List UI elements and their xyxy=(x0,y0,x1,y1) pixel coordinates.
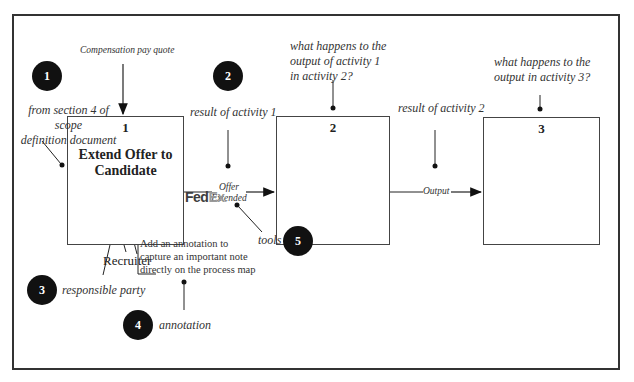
callout-4-text: annotation xyxy=(159,318,211,333)
annotation-note: Add an annotation to capture an importan… xyxy=(140,237,255,276)
callout-badge-3: 3 xyxy=(27,275,57,305)
callout-1-text: from section 4 of scope definition docum… xyxy=(16,103,121,148)
logo-ex: Ex xyxy=(208,189,224,205)
callout-2-text: result of activity 1 xyxy=(190,105,277,120)
question-activity-3: what happens to the output in activity 3… xyxy=(494,55,590,85)
input-label: Compensation pay quote xyxy=(80,45,174,55)
callout-1-line: from section 4 of scope xyxy=(16,103,121,133)
annotation-line: directly on the process map xyxy=(140,263,255,276)
callout-badge-1: 1 xyxy=(32,61,62,91)
flow-label-output: Output xyxy=(423,186,449,196)
logo-fed: Fed xyxy=(185,189,208,205)
annotation-line: capture an important note xyxy=(140,250,255,263)
callout-badge-4: 4 xyxy=(123,310,153,340)
callout-badge-5: 5 xyxy=(283,226,313,256)
question-activity-2: what happens to the output of activity 1… xyxy=(290,39,386,84)
fedex-logo-icon: FedEx. xyxy=(185,189,227,205)
question-line: output of activity 1 xyxy=(290,54,386,69)
question-line: output in activity 3? xyxy=(494,70,590,85)
callout-1-line: definition document xyxy=(16,133,121,148)
question-line: in activity 2? xyxy=(290,69,386,84)
activity-box-3[interactable]: 3 xyxy=(483,117,600,245)
annotation-line: Add an annotation to xyxy=(140,237,255,250)
activity-title: Extend Offer to Candidate xyxy=(68,147,183,179)
result-activity-2-text: result of activity 2 xyxy=(398,101,485,116)
question-line: what happens to the xyxy=(494,55,590,70)
activity-number: 2 xyxy=(277,120,389,136)
callout-5-text: tools xyxy=(258,233,281,248)
callout-3-text: responsible party xyxy=(62,283,145,298)
callout-badge-2: 2 xyxy=(213,61,243,91)
logo-dot: . xyxy=(225,194,227,204)
activity-number: 3 xyxy=(484,121,599,137)
question-line: what happens to the xyxy=(290,39,386,54)
